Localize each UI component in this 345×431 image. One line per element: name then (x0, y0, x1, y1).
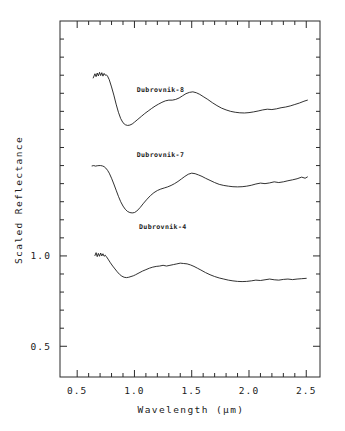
x-tick-label: 2.5 (296, 385, 316, 396)
x-axis-tick-labels: 0.51.01.52.02.5 (67, 385, 317, 396)
x-axis-title: Wavelength (μm) (138, 404, 245, 415)
curve-annotations: Dubrovnik-8Dubrovnik-7Dubrovnik-4 (137, 86, 187, 230)
y-axis-tick-labels: 0.51.0 (31, 250, 51, 351)
x-tick-label: 0.5 (67, 385, 87, 396)
curve-label: Dubrovnik-8 (137, 86, 185, 94)
curve-label: Dubrovnik-4 (139, 223, 187, 231)
x-tick-label: 2.0 (239, 385, 259, 396)
spectral-reflectance-figure: 0.51.01.52.02.5 0.51.0 Dubrovnik-8Dubrov… (0, 0, 345, 431)
y-tick-label: 1.0 (31, 250, 51, 261)
spectrum-curve (95, 253, 306, 282)
y-axis-ticks (60, 39, 320, 346)
x-axis-ticks (77, 21, 306, 377)
spectrum-curve (93, 72, 307, 125)
x-tick-label: 1.5 (181, 385, 201, 396)
spectrum-curve (92, 166, 307, 213)
x-tick-label: 1.0 (124, 385, 144, 396)
plot-canvas: 0.51.01.52.02.5 0.51.0 Dubrovnik-8Dubrov… (0, 0, 345, 431)
y-axis-title: Scaled Reflectance (13, 136, 24, 264)
y-tick-label: 0.5 (31, 341, 51, 352)
spectrum-curves (92, 72, 307, 281)
curve-label: Dubrovnik-7 (137, 151, 185, 159)
